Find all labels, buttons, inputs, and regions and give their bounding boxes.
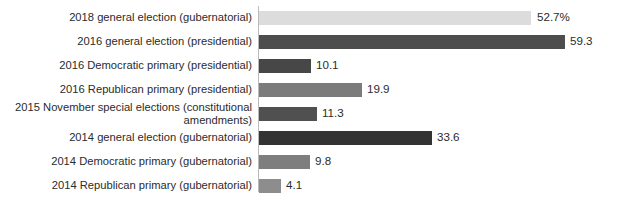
category-label: 2016 Republican primary (presidential) [6,78,252,96]
bar-row: 2016 Democratic primary (presidential) 1… [0,54,620,78]
bar[interactable] [259,83,362,97]
bar-chart: 2018 general election (gubernatorial) 52… [0,0,620,203]
bar-row: 2014 Republican primary (gubernatorial) … [0,174,620,198]
bar[interactable] [259,107,317,121]
bar[interactable] [259,131,432,145]
bar-row: 2014 general election (gubernatorial) 33… [0,126,620,150]
bar-value-label: 4.1 [286,178,302,192]
bar[interactable] [259,11,531,25]
bar-value-label: 10.1 [316,58,339,72]
bar-value-label: 59.3 [570,34,593,48]
plot-area: 2018 general election (gubernatorial) 52… [0,0,620,203]
category-label: 2014 Republican primary (gubernatorial) [6,174,252,192]
bar[interactable] [259,155,310,169]
category-label: 2014 Democratic primary (gubernatorial) [6,150,252,168]
bar[interactable] [259,179,281,193]
category-label: 2015 November special elections (constit… [6,96,252,126]
bar-value-label: 11.3 [322,106,344,120]
bar-value-label: 19.9 [367,82,390,96]
bar[interactable] [259,59,311,73]
bar-value-label: 33.6 [437,130,460,144]
bar-value-label: 52.7% [537,10,570,24]
category-label: 2016 general election (presidential) [6,30,252,48]
category-label: 2016 Democratic primary (presidential) [6,54,252,72]
bar-row: 2016 general election (presidential) 59.… [0,30,620,54]
category-label: 2014 general election (gubernatorial) [6,126,252,144]
bar[interactable] [259,35,565,49]
bar-row: 2018 general election (gubernatorial) 52… [0,6,620,30]
bar-row: 2015 November special elections (constit… [0,102,620,126]
category-label: 2018 general election (gubernatorial) [6,6,252,24]
bar-row: 2014 Democratic primary (gubernatorial) … [0,150,620,174]
bar-value-label: 9.8 [315,154,331,168]
